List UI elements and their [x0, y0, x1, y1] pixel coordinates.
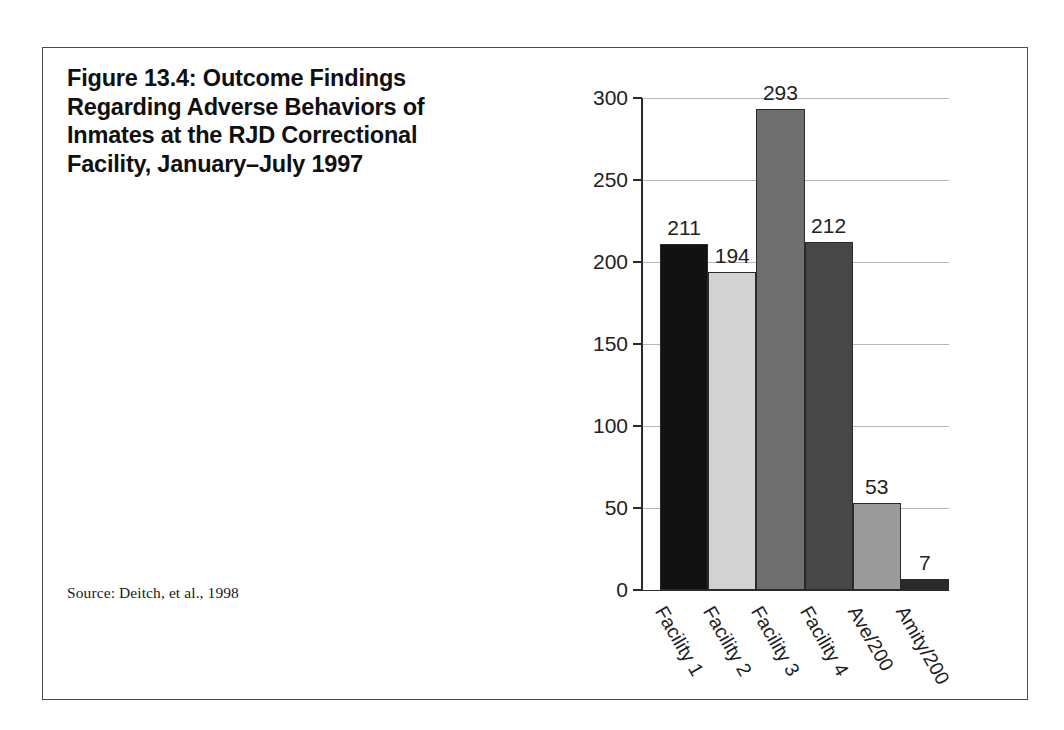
x-label-slot-3: Facility 3 — [756, 596, 804, 690]
bar-value-label-3: 293 — [763, 81, 798, 105]
bar-slot-5: 53 — [853, 97, 901, 590]
figure-source-note: Source: Deitch, et al., 1998 — [67, 584, 239, 602]
y-tick-label-200: 200 — [593, 250, 628, 274]
bar-slot-3: 293 — [756, 97, 804, 590]
bar-3: 293 — [756, 109, 804, 590]
page-background: Figure 13.4: Outcome Findings Regarding … — [0, 0, 1064, 730]
y-tick-mark-300 — [633, 97, 642, 98]
bar-1: 211 — [660, 244, 708, 590]
y-tick-label-50: 50 — [605, 496, 628, 520]
plot-area: 050100150200250300 211194293212537 Facil… — [541, 50, 1021, 690]
bar-slot-4: 212 — [805, 97, 853, 590]
y-tick-mark-100 — [633, 425, 642, 426]
y-tick-label-250: 250 — [593, 168, 628, 192]
y-tick-mark-150 — [633, 343, 642, 344]
bar-6: 7 — [901, 579, 949, 590]
x-label-slot-6: Amity/200 — [901, 596, 949, 690]
x-label-slot-1: Facility 1 — [660, 596, 708, 690]
bar-series: 211194293212537 — [660, 97, 949, 590]
bar-value-label-2: 194 — [715, 244, 750, 268]
x-label-slot-2: Facility 2 — [708, 596, 756, 690]
y-tick-mark-200 — [633, 261, 642, 262]
x-label-slot-4: Facility 4 — [805, 596, 853, 690]
figure-title: Figure 13.4: Outcome Findings Regarding … — [67, 64, 497, 179]
bar-value-label-4: 212 — [811, 214, 846, 238]
bar-value-label-5: 53 — [865, 475, 888, 499]
bar-slot-6: 7 — [901, 97, 949, 590]
bar-5: 53 — [853, 503, 901, 590]
y-tick-mark-50 — [633, 507, 642, 508]
y-tick-mark-250 — [633, 179, 642, 180]
x-label-slot-5: Ave/200 — [853, 596, 901, 690]
bar-4: 212 — [805, 242, 853, 590]
x-axis-labels: Facility 1Facility 2Facility 3Facility 4… — [660, 596, 949, 690]
y-tick-label-300: 300 — [593, 86, 628, 110]
bar-value-label-1: 211 — [667, 216, 700, 240]
bar-chart: 050100150200250300 211194293212537 Facil… — [541, 50, 1021, 690]
y-tick-label-150: 150 — [593, 332, 628, 356]
bar-slot-2: 194 — [708, 97, 756, 590]
bar-value-label-6: 7 — [919, 551, 931, 575]
y-tick-label-100: 100 — [593, 414, 628, 438]
x-axis-label-6: Amity/200 — [891, 602, 954, 689]
bar-2: 194 — [708, 272, 756, 590]
y-tick-label-0: 0 — [616, 578, 628, 602]
y-tick-mark-0 — [633, 589, 642, 590]
bar-slot-1: 211 — [660, 97, 708, 590]
figure-frame: Figure 13.4: Outcome Findings Regarding … — [42, 47, 1028, 700]
